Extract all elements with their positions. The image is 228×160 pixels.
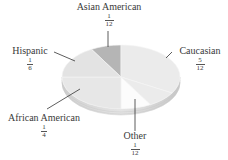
fraction-hispanic: 16: [27, 57, 33, 72]
label-african-american: African American 14: [2, 113, 86, 139]
fraction-other: 112: [131, 142, 140, 157]
label-asian-american: Asian American 112: [71, 2, 147, 28]
fraction-caucasian: 512: [196, 57, 205, 72]
slice-african-american: [62, 77, 121, 109]
label-other: Other 112: [119, 131, 151, 157]
label-caucasian: Caucasian 512: [174, 46, 226, 72]
label-hispanic: Hispanic 16: [9, 46, 51, 72]
pie-slices: [62, 45, 180, 109]
fraction-african: 14: [41, 124, 47, 139]
fraction-asian: 112: [105, 13, 114, 28]
